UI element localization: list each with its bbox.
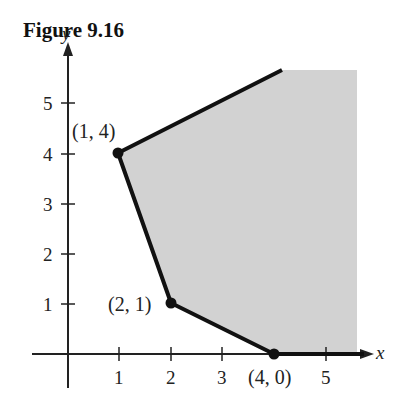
x-tick-label: 2 (166, 367, 176, 388)
vertex-point-1-4 (113, 148, 124, 159)
y-axis (61, 42, 75, 388)
y-axis-label: y (60, 23, 71, 44)
y-tick-label: 5 (43, 93, 53, 114)
vertex-point-2-1 (166, 298, 177, 309)
point-label-2-1: (2, 1) (108, 293, 151, 316)
point-label-4-0: (4, 0) (248, 366, 291, 389)
x-tick-label: 5 (321, 367, 331, 388)
feasible-region (118, 70, 357, 354)
point-label-1-4: (1, 4) (72, 120, 115, 143)
x-tick-label: 3 (217, 367, 227, 388)
y-tick-label: 2 (43, 244, 53, 265)
y-tick-label: 4 (43, 144, 53, 165)
vertex-point-4-0 (269, 349, 280, 360)
y-tick-label: 3 (43, 194, 53, 215)
x-axis-label: x (375, 342, 385, 363)
y-tick-label: 1 (43, 294, 53, 315)
chart-canvas: x y 1 2 3 5 1 2 3 4 5 (1, 4) (2, 1) (4, … (0, 0, 400, 412)
x-tick-label: 1 (114, 367, 124, 388)
